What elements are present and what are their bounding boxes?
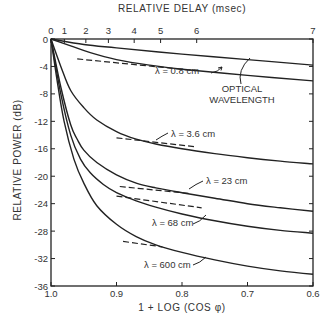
label-optical: OPTICAL WAVELENGTH bbox=[209, 58, 275, 105]
leader-line bbox=[193, 257, 206, 265]
top-axis-title: RELATIVE DELAY (msec) bbox=[118, 3, 246, 14]
x2-tick-label: 1 bbox=[62, 25, 67, 36]
y-tick-label: -8 bbox=[40, 88, 48, 99]
x-tick-label: 0.6 bbox=[306, 288, 319, 299]
x-axis: 1.00.90.80.70.6 bbox=[44, 282, 319, 299]
asymptote-dashed bbox=[117, 196, 202, 208]
y-tick-label: -16 bbox=[34, 143, 48, 154]
label-lambda-600: λ = 600 cm bbox=[144, 257, 206, 270]
x-tick-label: 0.7 bbox=[241, 288, 254, 299]
y-tick-label: -24 bbox=[34, 198, 48, 209]
label-optical-line2: WAVELENGTH bbox=[209, 94, 275, 105]
y-tick-label: -20 bbox=[34, 171, 48, 182]
label-optical-line1: OPTICAL bbox=[222, 83, 263, 94]
label-lambda-3.6: λ = 3.6 cm bbox=[156, 128, 215, 140]
leader-line bbox=[240, 58, 250, 84]
asymptote-dashed bbox=[117, 138, 196, 147]
x-tick-label: 0.9 bbox=[110, 288, 123, 299]
chart: 0-4-8-12-16-20-24-28-32-36 1.00.90.80.70… bbox=[0, 0, 331, 324]
leader-line bbox=[156, 133, 168, 140]
label-lambda-23-text: λ = 23 cm bbox=[206, 175, 248, 186]
label-lambda-3.6-text: λ = 3.6 cm bbox=[171, 128, 215, 139]
y-tick-label: -32 bbox=[34, 253, 48, 264]
y-axis-title: RELATIVE POWER (dB) bbox=[12, 99, 23, 220]
x2-tick-label: 3 bbox=[106, 25, 111, 36]
x2-tick-label: 4 bbox=[132, 25, 137, 36]
plot-frame bbox=[51, 39, 313, 286]
x-tick-label: 0.8 bbox=[175, 288, 188, 299]
x2-tick-label: 0 bbox=[48, 25, 53, 36]
x-tick-label: 1.0 bbox=[44, 288, 57, 299]
y-tick-label: 0 bbox=[43, 34, 48, 45]
label-lambda-68-text: λ = 68 cm bbox=[152, 217, 194, 228]
label-lambda-0.8: λ = 0.8 cm bbox=[155, 65, 222, 76]
x-axis-title: 1 + LOG (COS φ) bbox=[138, 302, 225, 313]
asymptote-dashed bbox=[123, 241, 162, 246]
label-lambda-0.8-text: λ = 0.8 cm bbox=[155, 65, 199, 76]
top-delay-axis: 01234567 bbox=[48, 25, 315, 43]
y-tick-label: -12 bbox=[34, 116, 48, 127]
y-tick-label: -28 bbox=[34, 226, 48, 237]
x2-tick-label: 6 bbox=[194, 25, 199, 36]
leader-line bbox=[189, 181, 203, 189]
x2-tick-label: 7 bbox=[310, 25, 315, 36]
x2-tick-label: 2 bbox=[83, 25, 88, 36]
label-lambda-23: λ = 23 cm bbox=[189, 175, 248, 189]
y-tick-label: -4 bbox=[40, 61, 48, 72]
plot-border bbox=[51, 39, 313, 286]
x2-tick-label: 5 bbox=[158, 25, 163, 36]
label-lambda-600-text: λ = 600 cm bbox=[144, 259, 191, 270]
